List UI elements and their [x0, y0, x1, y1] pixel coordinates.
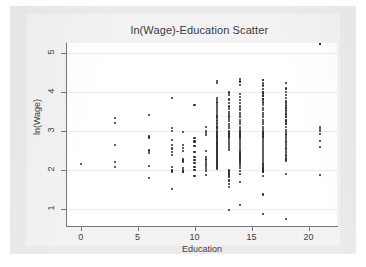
screenshot-root: ln(Wage)-Education Scatter 12345 0510152… [0, 0, 366, 267]
scatter-point [262, 85, 264, 87]
scatter-point [262, 88, 264, 90]
scatter-point [262, 79, 264, 81]
scatter-point [148, 152, 150, 154]
scatter-point [262, 91, 264, 93]
scatter-point [228, 98, 230, 100]
scatter-point [171, 97, 173, 99]
scatter-point [239, 102, 241, 104]
scatter-point [193, 151, 195, 153]
scatter-point [239, 181, 241, 183]
scatter-point [182, 161, 184, 163]
y-tick-label-5: 5 [46, 45, 56, 59]
scatter-point [228, 176, 230, 178]
gridline-y-5 [67, 53, 337, 54]
scatter-point [171, 139, 173, 141]
x-tick-label-5: 5 [128, 232, 148, 242]
scatter-point [319, 146, 321, 148]
scatter-point [171, 170, 173, 172]
scatter-point [114, 122, 116, 124]
scatter-point [262, 213, 264, 215]
scatter-point [228, 209, 230, 211]
scatter-point [205, 150, 207, 152]
scatter-point [193, 140, 195, 142]
scatter-point [205, 134, 207, 136]
scatter-point [228, 183, 230, 185]
y-axis-label: ln(Wage) [32, 88, 42, 146]
scatter-point [148, 165, 150, 167]
x-axis-label: Education [67, 244, 337, 254]
scatter-point [228, 94, 230, 96]
y-tick-label-4: 4 [46, 84, 56, 98]
scatter-point [148, 137, 150, 139]
scatter-point [171, 188, 173, 190]
gridline-y-1 [67, 209, 337, 210]
x-tick-label-20: 20 [299, 232, 319, 242]
scatter-point [148, 177, 150, 179]
scatter-point [285, 160, 287, 162]
scatter-point [285, 91, 287, 93]
scatter-point [239, 84, 241, 86]
scatter-point [193, 137, 195, 139]
scatter-point [228, 186, 230, 188]
y-axis-line [66, 43, 67, 227]
x-tick-label-0: 0 [71, 232, 91, 242]
x-tick-label-15: 15 [242, 232, 262, 242]
y-tick-1 [61, 209, 66, 210]
scatter-point [171, 144, 173, 146]
scatter-point [285, 126, 287, 128]
scatter-point [205, 170, 207, 172]
scatter-point [182, 147, 184, 149]
scatter-point [239, 204, 241, 206]
scatter-point [239, 173, 241, 175]
figure-canvas: ln(Wage)-Education Scatter 12345 0510152… [10, 6, 356, 254]
x-tick-10 [195, 227, 196, 231]
scatter-point [171, 147, 173, 149]
scatter-point [285, 82, 287, 84]
scatter-point [228, 179, 230, 181]
scatter-point [319, 140, 321, 142]
scatter-point [182, 150, 184, 152]
scatter-point [239, 99, 241, 101]
gridline-y-4 [67, 92, 337, 93]
x-tick-20 [309, 227, 310, 231]
scatter-point [262, 98, 264, 100]
scatter-point [239, 80, 241, 82]
gridline-y-3 [67, 131, 337, 132]
scatter-point [239, 93, 241, 95]
x-tick-0 [81, 227, 82, 231]
gridline-y-2 [67, 170, 337, 171]
scatter-point [239, 167, 241, 169]
x-tick-label-10: 10 [185, 232, 205, 242]
scatter-point [193, 159, 195, 161]
scatter-point [193, 162, 195, 164]
scatter-point [319, 43, 321, 45]
y-tick-label-1: 1 [46, 201, 56, 215]
scatter-point [114, 117, 116, 119]
scatter-point [182, 131, 184, 133]
scatter-point [262, 175, 264, 177]
scatter-point [319, 174, 321, 176]
plot-area [67, 43, 337, 226]
scatter-point [262, 193, 264, 195]
scatter-point [239, 161, 241, 163]
scatter-point [193, 156, 195, 158]
y-tick-label-2: 2 [46, 162, 56, 176]
scatter-point [193, 166, 195, 168]
scatter-point [216, 82, 218, 84]
y-tick-3 [61, 131, 66, 132]
scatter-point [262, 94, 264, 96]
scatter-point [193, 104, 195, 106]
scatter-point [171, 130, 173, 132]
scatter-point [205, 174, 207, 176]
x-tick-5 [138, 227, 139, 231]
scatter-point [193, 169, 195, 171]
scatter-point [193, 145, 195, 147]
scatter-point [182, 171, 184, 173]
scatter-point [285, 173, 287, 175]
scatter-point [239, 170, 241, 172]
scatter-point [285, 87, 287, 89]
scatter-point [262, 171, 264, 173]
y-tick-4 [61, 92, 66, 93]
scatter-point [228, 149, 230, 151]
y-tick-5 [61, 53, 66, 54]
